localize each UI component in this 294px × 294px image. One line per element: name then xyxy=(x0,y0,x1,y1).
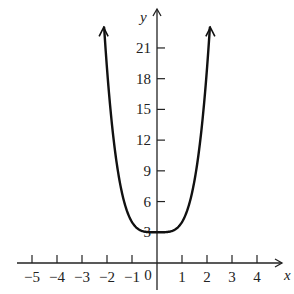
x-tick-label: −4 xyxy=(49,269,65,285)
x-tick-label: 2 xyxy=(203,269,211,285)
y-tick-label: 6 xyxy=(144,194,152,210)
x-tick-label: −3 xyxy=(74,269,90,285)
x-tick-label: −2 xyxy=(99,269,115,285)
y-tick-label: 12 xyxy=(136,132,151,148)
origin-label: 0 xyxy=(144,267,152,283)
y-axis-label: y xyxy=(138,9,147,25)
x-tick-label: 3 xyxy=(228,269,236,285)
x-tick-label: −5 xyxy=(24,269,40,285)
x-tick-label: 1 xyxy=(178,269,186,285)
y-tick-label: 18 xyxy=(136,71,151,87)
y-tick-label: 21 xyxy=(136,40,151,56)
x-axis-label: x xyxy=(283,267,291,283)
x-tick-label: −1 xyxy=(124,269,140,285)
x-tick-label: 4 xyxy=(253,269,261,285)
y-tick-label: 9 xyxy=(144,163,152,179)
y-tick-label: 15 xyxy=(136,101,151,117)
function-graph: xy−5−4−3−2−11234036912151821 xyxy=(0,0,294,294)
